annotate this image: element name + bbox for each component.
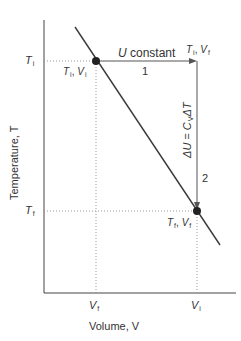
y-tick-ti: Ti: [25, 55, 34, 67]
step1-label: U constant: [118, 47, 175, 59]
end-point: [193, 207, 201, 215]
start-point: [92, 57, 100, 65]
y-tick-tf-sub: f: [33, 210, 35, 217]
x-tick-vi-sub: i: [199, 305, 201, 312]
corner-label-t: T: [186, 44, 192, 55]
start-label-t: T: [63, 66, 69, 77]
step1-text: constant: [127, 46, 176, 60]
corner-label-v: V: [200, 44, 207, 55]
y-tick-tf: Tf: [25, 205, 35, 217]
step1-arrowhead-icon: [189, 58, 197, 64]
corner-point-label: Ti, Vf: [186, 45, 210, 56]
start-point-label: Ti, Vi: [63, 67, 86, 78]
step2-number: 2: [202, 173, 208, 184]
end-point-label: Tf, Vf: [167, 218, 191, 229]
start-label-v: V: [77, 66, 84, 77]
y-tick-ti-sub: i: [33, 60, 35, 67]
end-label-v-sub: f: [189, 222, 191, 229]
step2-c: C: [181, 122, 193, 130]
step1-u: U: [118, 46, 127, 60]
x-axis-title: Volume, V: [89, 320, 139, 332]
start-label-v-sub: i: [85, 71, 87, 78]
step2-equation: ΔU = CVΔT: [182, 102, 194, 158]
step2-eq: =: [181, 130, 193, 143]
y-tick-tf-var: T: [25, 204, 32, 216]
x-tick-vi-var: V: [191, 299, 198, 311]
x-tick-vi: Vi: [191, 300, 201, 312]
end-label-v: V: [182, 217, 189, 228]
x-tick-vf: Vf: [89, 300, 99, 312]
step2-delta-u: ΔU: [181, 143, 193, 158]
y-tick-ti-var: T: [25, 54, 32, 66]
x-tick-vf-var: V: [89, 299, 96, 311]
y-axis-title: Temperature, T: [8, 126, 20, 200]
corner-label-v-sub: f: [208, 49, 210, 56]
x-tick-vf-sub: f: [97, 305, 99, 312]
step2-delta-t: ΔT: [181, 102, 193, 116]
step1-number: 1: [142, 66, 148, 77]
end-label-t: T: [167, 217, 173, 228]
step2-c-sub: V: [187, 117, 194, 122]
